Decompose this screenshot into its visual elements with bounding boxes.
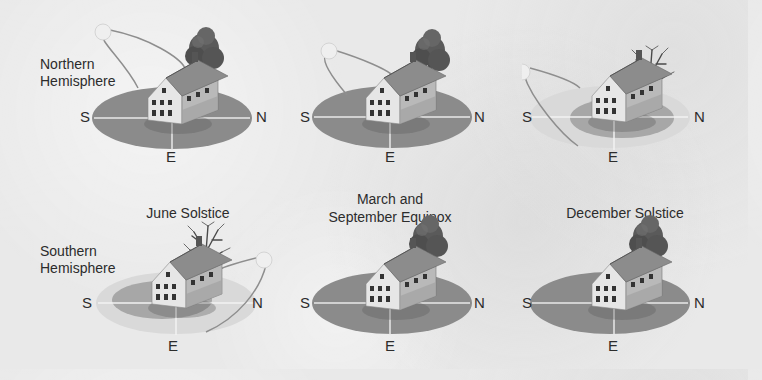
compass-east-label: E — [385, 148, 395, 165]
compass-south-label: S — [522, 294, 532, 311]
sun-icon — [522, 64, 530, 80]
compass-north-label: N — [474, 294, 485, 311]
compass-north-label: N — [694, 294, 705, 311]
panel-south-equinox — [300, 210, 540, 370]
caption-line: March and — [315, 190, 465, 208]
sun-icon — [256, 252, 272, 268]
panel-north-december — [522, 0, 762, 160]
compass-south-label: S — [522, 108, 532, 125]
compass-north-label: N — [256, 108, 267, 125]
panel-north-june — [70, 0, 310, 160]
compass-north-label: N — [474, 108, 485, 125]
panel-south-june — [70, 210, 310, 370]
compass-north-label: N — [694, 108, 705, 125]
compass-east-label: E — [166, 148, 176, 165]
compass-south-label: S — [82, 294, 92, 311]
compass-east-label: E — [385, 337, 395, 354]
compass-east-label: E — [608, 148, 618, 165]
compass-south-label: S — [300, 108, 310, 125]
compass-south-label: S — [80, 108, 90, 125]
sun-icon — [321, 43, 337, 59]
compass-north-label: N — [252, 294, 263, 311]
compass-east-label: E — [168, 337, 178, 354]
panel-south-december — [522, 210, 762, 370]
compass-east-label: E — [608, 337, 618, 354]
panel-north-equinox — [300, 0, 540, 160]
sun-icon — [95, 24, 111, 40]
compass-south-label: S — [300, 294, 310, 311]
